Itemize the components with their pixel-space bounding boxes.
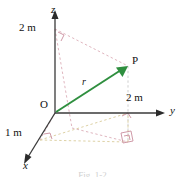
vector-r-label: r [82, 77, 86, 87]
z-axis-label: z [51, 4, 55, 15]
z-measure-label: 2 m [19, 22, 36, 33]
right-angle-base-inner [124, 135, 130, 140]
right-angle-y-axis [122, 113, 131, 118]
origin-label: O [40, 99, 48, 110]
right-angle-base-foot [121, 131, 133, 143]
dashed-base-horizontal [40, 140, 128, 142]
y-axis-label: y [170, 105, 175, 116]
figure-caption: Fig. 1-2 [0, 170, 185, 177]
figure-3d-coordinate-diagram: z y x 2 m 2 m 1 m O P r Fig. 1-2 [0, 0, 185, 177]
y-axis-arrowhead [156, 110, 165, 117]
point-p-label: P [132, 55, 138, 66]
x-measure-label: 1 m [5, 127, 22, 138]
position-vector-r [56, 66, 128, 112]
dashed-top-edge [55, 29, 128, 66]
y-measure-label: 2 m [126, 92, 143, 103]
right-angle-z-axis [58, 32, 64, 41]
dashed-base-diagonal [72, 128, 128, 142]
right-angle-marks [44, 32, 133, 143]
